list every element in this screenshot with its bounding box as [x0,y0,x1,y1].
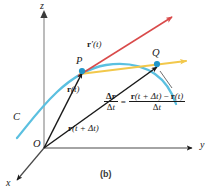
rhs-den-var: t [159,102,162,112]
y-axis-label: y [200,140,204,150]
rhs-numerator: r(t + Δt)−r(t) [129,91,185,102]
z-axis [40,10,47,148]
point-q-label: Q [152,48,160,59]
lhs-fraction: Δr Δt [104,91,118,112]
curve-label-c: C [13,112,20,123]
rt-arg: (t) [71,84,80,94]
lhs-den-var: t [112,102,115,112]
point-p-dot [79,68,85,74]
z-axis-label: z [40,1,44,11]
lhs-numerator: Δr [104,91,118,102]
lhs-vec-r: r [112,91,116,101]
origin-label: O [33,139,41,150]
position-vector-rt-label: r(t) [67,85,80,94]
equals-sign: = [118,97,129,107]
x-axis-label: x [6,178,10,188]
tangent-vector-arg: ′(t) [91,39,101,49]
rtdt-arg: (t + Δt) [72,123,99,133]
rhs-denominator: Δt [129,102,185,112]
figure-caption: (b) [100,170,112,179]
difference-quotient-equation: Δr Δt = r(t + Δt)−r(t) Δt [104,91,185,112]
rhs-arg2: (t) [175,91,184,101]
rhs-minus: − [162,91,171,101]
rhs-fraction: r(t + Δt)−r(t) Δt [129,91,185,112]
x-axis [17,148,44,180]
point-p-label: P [76,56,82,67]
position-vector-rt-dt-label: r(t + Δt) [68,124,99,133]
point-q-dot [154,61,160,67]
tangent-vector-label: r′(t) [87,40,101,49]
vector-derivative-diagram: z y x O C P Q r′(t) r(t) r(t + Δt) Δr Δt… [0,0,215,194]
lhs-denominator: Δt [104,102,118,112]
rhs-arg1: (t + Δt) [135,91,162,101]
